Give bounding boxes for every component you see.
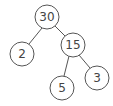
node-2: 2 bbox=[10, 42, 34, 66]
edge-30-15 bbox=[55, 26, 65, 36]
node-label: 15 bbox=[65, 38, 80, 52]
node-5: 5 bbox=[50, 76, 74, 100]
edge-15-5 bbox=[64, 56, 69, 76]
factor-tree-diagram: 30 2 15 5 3 bbox=[0, 0, 113, 106]
node-15: 15 bbox=[61, 33, 85, 57]
node-label: 3 bbox=[93, 71, 101, 85]
node-30: 30 bbox=[35, 5, 59, 29]
edge-15-3 bbox=[79, 55, 90, 68]
node-3: 3 bbox=[85, 66, 109, 90]
node-label: 5 bbox=[58, 81, 66, 95]
nodes: 30 2 15 5 3 bbox=[10, 5, 109, 100]
node-label: 2 bbox=[18, 47, 26, 61]
edge-30-2 bbox=[29, 28, 42, 44]
node-label: 30 bbox=[39, 10, 54, 24]
